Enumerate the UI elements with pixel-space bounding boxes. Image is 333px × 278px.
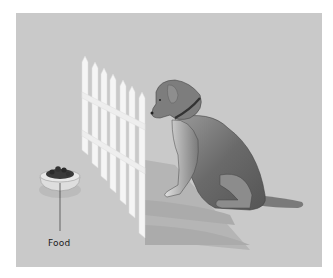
food-label: Food (48, 238, 70, 248)
dog (151, 80, 304, 210)
illustration (0, 0, 333, 278)
picket-fence (82, 56, 145, 238)
